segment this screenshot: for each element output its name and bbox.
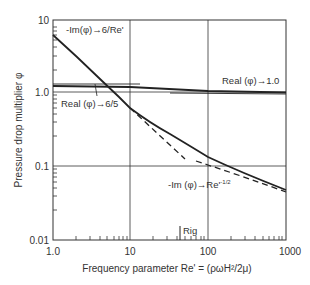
gridlines bbox=[53, 20, 286, 240]
x-tick-10: 10 bbox=[124, 246, 136, 257]
annotation-im-6-re: -Im(φ)→6/Re' bbox=[66, 24, 124, 35]
y-tick-0.01: 0.01 bbox=[30, 235, 50, 246]
chart: -Im(φ)→6/Re' Real (φ)→1.0 Real (φ)→6/5 -… bbox=[0, 0, 310, 285]
y-tick-10: 10 bbox=[38, 15, 50, 26]
y-tick-0.1: 0.1 bbox=[35, 161, 49, 172]
neg-im-phi-curve bbox=[53, 35, 286, 190]
real-phi-asymptote-1 bbox=[170, 93, 286, 94]
y-axis-title: Pressure drop multiplier φ bbox=[13, 72, 24, 187]
y-tick-1: 1.0 bbox=[35, 87, 49, 98]
x-minor-ticks bbox=[76, 236, 282, 240]
plot-frame bbox=[53, 20, 286, 240]
y-minor-ticks bbox=[53, 27, 57, 210]
annotation-real-6-5: Real (φ)→6/5 bbox=[61, 98, 118, 109]
annotation-rig: Rig bbox=[183, 225, 197, 236]
x-tick-1: 1.0 bbox=[46, 246, 60, 257]
real-phi-curve bbox=[53, 86, 286, 93]
x-tick-100: 100 bbox=[200, 246, 217, 257]
annotation-real-1: Real (φ)→1.0 bbox=[222, 75, 279, 86]
x-axis-title: Frequency parameter Re' = (ρωH²/2μ) bbox=[82, 263, 251, 274]
x-tick-1000: 1000 bbox=[279, 246, 302, 257]
neg-im-asymptote-6-re bbox=[130, 108, 185, 159]
annotation-im-re-half: -Im (φ)→Re'-1/2 bbox=[168, 179, 231, 190]
